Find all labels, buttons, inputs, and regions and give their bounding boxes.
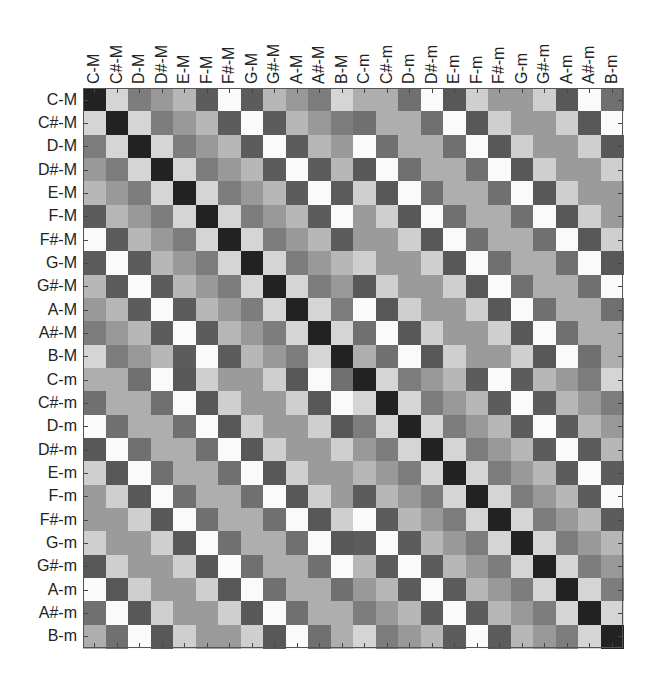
heatmap-cell xyxy=(398,508,421,532)
heatmap-cell xyxy=(578,508,601,532)
heatmap-cell xyxy=(331,555,354,579)
heatmap-cell xyxy=(578,205,601,229)
heatmap-cell xyxy=(376,391,399,415)
heatmap-cell xyxy=(511,508,534,532)
heatmap-cell xyxy=(263,205,286,229)
heatmap-cell xyxy=(263,438,286,462)
heatmap-cell xyxy=(241,298,264,322)
heatmap-cell xyxy=(353,531,376,555)
heatmap-cell xyxy=(286,508,309,532)
heatmap-cell xyxy=(308,111,331,135)
x-tick xyxy=(567,88,568,93)
heatmap-cell xyxy=(398,555,421,579)
heatmap-cell xyxy=(196,601,219,625)
heatmap-cell xyxy=(443,228,466,252)
x-tick xyxy=(589,88,590,93)
heatmap-cell xyxy=(443,135,466,159)
heatmap-cell xyxy=(398,485,421,509)
heatmap-cell xyxy=(466,508,489,532)
heatmap-cell xyxy=(533,438,556,462)
heatmap-cell xyxy=(106,298,129,322)
heatmap-cell xyxy=(196,368,219,392)
heatmap-cell xyxy=(556,275,579,299)
y-tick xyxy=(618,146,623,147)
x-tick xyxy=(522,643,523,648)
heatmap-cell xyxy=(556,228,579,252)
heatmap-cell xyxy=(556,205,579,229)
heatmap-cell xyxy=(286,321,309,345)
heatmap-cell xyxy=(308,578,331,602)
heatmap-cell xyxy=(511,415,534,439)
heatmap-cell xyxy=(421,438,444,462)
y-tick xyxy=(618,403,623,404)
heatmap-cell xyxy=(466,181,489,205)
y-tick xyxy=(83,193,88,194)
y-tick xyxy=(618,520,623,521)
heatmap-cell xyxy=(263,531,286,555)
heatmap-cell xyxy=(263,508,286,532)
x-tick-label: A#-m xyxy=(581,46,597,84)
heatmap-cell xyxy=(196,158,219,182)
heatmap-cell xyxy=(331,321,354,345)
heatmap-cell xyxy=(308,508,331,532)
heatmap-cell xyxy=(511,601,534,625)
heatmap-cell xyxy=(128,415,151,439)
heatmap-cell xyxy=(353,461,376,485)
heatmap-cell xyxy=(443,181,466,205)
heatmap-cell xyxy=(556,251,579,275)
heatmap-cell xyxy=(421,321,444,345)
x-tick-label: C-M xyxy=(86,54,102,84)
heatmap-cell xyxy=(533,111,556,135)
heatmap-cell xyxy=(578,251,601,275)
x-tick-label: E-M xyxy=(176,55,192,84)
y-tick xyxy=(618,193,623,194)
heatmap-cell xyxy=(511,158,534,182)
heatmap-cell xyxy=(173,461,196,485)
heatmap-cell xyxy=(128,601,151,625)
heatmap-cell xyxy=(443,601,466,625)
heatmap-cell xyxy=(173,415,196,439)
y-tick xyxy=(618,450,623,451)
heatmap-cell xyxy=(286,158,309,182)
y-tick xyxy=(618,216,623,217)
heatmap-cell xyxy=(466,555,489,579)
heatmap-cell xyxy=(128,321,151,345)
heatmap-cell xyxy=(106,601,129,625)
y-tick xyxy=(618,100,623,101)
heatmap-cell xyxy=(128,391,151,415)
y-tick xyxy=(618,496,623,497)
heatmap-cell xyxy=(173,368,196,392)
heatmap-cell xyxy=(353,485,376,509)
y-tick xyxy=(83,286,88,287)
heatmap-cell xyxy=(196,578,219,602)
heatmap-cell xyxy=(151,111,174,135)
heatmap-cell xyxy=(511,181,534,205)
y-tick-label: C#-M xyxy=(38,115,77,131)
heatmap-cell xyxy=(511,531,534,555)
heatmap-cell xyxy=(533,485,556,509)
heatmap-cell xyxy=(421,461,444,485)
heatmap-cell xyxy=(443,111,466,135)
heatmap-cell xyxy=(263,345,286,369)
heatmap-cell xyxy=(578,601,601,625)
heatmap-cell xyxy=(151,531,174,555)
heatmap-cell xyxy=(466,368,489,392)
heatmap-cell xyxy=(398,461,421,485)
heatmap-cell xyxy=(151,485,174,509)
heatmap-cell xyxy=(218,578,241,602)
x-tick xyxy=(139,643,140,648)
heatmap-cell xyxy=(196,461,219,485)
heatmap-cell xyxy=(331,531,354,555)
heatmap-cell xyxy=(263,485,286,509)
heatmap-cell xyxy=(286,275,309,299)
heatmap-cell xyxy=(218,555,241,579)
heatmap-cell xyxy=(196,275,219,299)
y-tick-label: A-M xyxy=(48,302,77,318)
heatmap-cell xyxy=(196,228,219,252)
heatmap-cell xyxy=(308,555,331,579)
heatmap-cell xyxy=(421,508,444,532)
x-tick xyxy=(589,643,590,648)
x-tick xyxy=(207,643,208,648)
heatmap-cell xyxy=(218,508,241,532)
x-tick xyxy=(117,643,118,648)
